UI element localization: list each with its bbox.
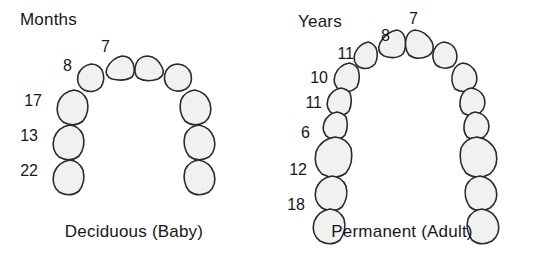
age-label-permanent-first-molar: 6 bbox=[286, 124, 310, 142]
age-label-permanent-lateral-incisor: 8 bbox=[368, 27, 390, 45]
age-label-permanent-third-molar: 18 bbox=[274, 196, 305, 214]
age-label-deciduous-central-incisor: 7 bbox=[88, 38, 110, 56]
tooth-permanent-left-lateral-incisor bbox=[354, 42, 377, 68]
tooth-deciduous-left-lateral-incisor bbox=[78, 64, 104, 91]
tooth-permanent-right-first-molar bbox=[460, 137, 497, 177]
caption-permanent: Permanent (Adult) bbox=[268, 222, 536, 242]
tooth-permanent-left-second-molar bbox=[315, 176, 347, 211]
tooth-deciduous-left-second-molar bbox=[53, 160, 84, 195]
age-label-permanent-central-incisor: 7 bbox=[396, 10, 418, 28]
age-label-permanent-second-molar: 12 bbox=[276, 161, 307, 179]
tooth-permanent-right-second-molar bbox=[465, 176, 497, 211]
tooth-permanent-left-first-premolar bbox=[327, 88, 351, 115]
age-label-deciduous-canine: 17 bbox=[12, 92, 42, 110]
tooth-deciduous-right-lateral-incisor bbox=[164, 64, 191, 91]
tooth-permanent-right-central-incisor bbox=[405, 30, 433, 58]
age-label-deciduous-second-molar: 22 bbox=[5, 162, 38, 180]
tooth-permanent-right-second-premolar bbox=[464, 112, 489, 140]
tooth-deciduous-left-central-incisor bbox=[106, 56, 134, 80]
tooth-permanent-right-canine bbox=[452, 63, 477, 92]
dental-eruption-diagram: Months 7 8 17 13 22 Dec bbox=[0, 0, 536, 268]
age-label-permanent-first-premolar: 10 bbox=[300, 69, 328, 87]
tooth-permanent-left-first-molar bbox=[315, 137, 352, 177]
tooth-deciduous-right-second-molar bbox=[184, 160, 215, 195]
tooth-permanent-left-second-premolar bbox=[323, 112, 347, 139]
tooth-deciduous-left-first-molar bbox=[53, 125, 84, 160]
tooth-permanent-left-canine bbox=[334, 63, 359, 91]
panel-deciduous: Months 7 8 17 13 22 Dec bbox=[0, 0, 268, 268]
panel-permanent: Years bbox=[268, 0, 536, 268]
tooth-permanent-right-first-premolar bbox=[460, 88, 485, 116]
caption-deciduous: Deciduous (Baby) bbox=[0, 222, 268, 242]
tooth-deciduous-right-canine bbox=[180, 90, 211, 125]
tooth-deciduous-right-central-incisor bbox=[135, 56, 163, 81]
tooth-permanent-right-lateral-incisor bbox=[433, 42, 457, 68]
age-label-deciduous-first-molar: 13 bbox=[8, 127, 38, 145]
tooth-deciduous-right-first-molar bbox=[184, 125, 215, 160]
age-label-deciduous-lateral-incisor: 8 bbox=[50, 57, 72, 75]
age-label-permanent-canine: 11 bbox=[328, 45, 354, 63]
age-label-permanent-second-premolar: 11 bbox=[294, 94, 322, 112]
tooth-deciduous-left-canine bbox=[57, 90, 88, 125]
